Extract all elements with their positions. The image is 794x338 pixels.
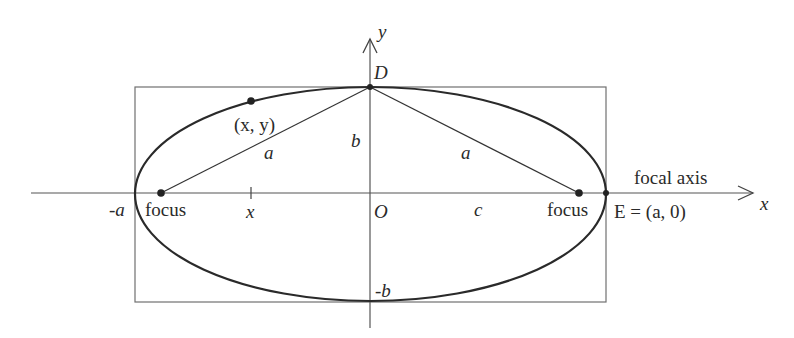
ellipse-diagram: y D (x, y) a b a -a focus x O c focus E … <box>0 0 794 338</box>
x-axis-label: x <box>759 193 769 214</box>
label-b: b <box>351 130 361 151</box>
point-xy <box>247 97 255 105</box>
label-right-focus: focus <box>547 199 588 220</box>
label-neg-b: -b <box>375 280 391 301</box>
label-neg-a: -a <box>109 199 125 220</box>
label-focal-axis: focal axis <box>634 167 707 188</box>
label-e: E = (a, 0) <box>614 201 686 223</box>
label-d: D <box>373 62 388 83</box>
label-a-right: a <box>461 142 471 163</box>
segment-right-focus-to-d <box>370 87 579 193</box>
label-origin: O <box>374 201 388 222</box>
label-a-left: a <box>264 142 274 163</box>
label-c: c <box>474 199 483 220</box>
left-focus-point <box>157 189 165 197</box>
segment-left-focus-to-d <box>161 87 370 193</box>
label-x-tick: x <box>245 201 255 222</box>
y-axis-label: y <box>376 21 387 42</box>
right-focus-point <box>575 189 583 197</box>
point-e <box>603 190 609 196</box>
point-d <box>367 84 373 90</box>
label-xy: (x, y) <box>234 114 275 136</box>
label-left-focus: focus <box>145 199 186 220</box>
